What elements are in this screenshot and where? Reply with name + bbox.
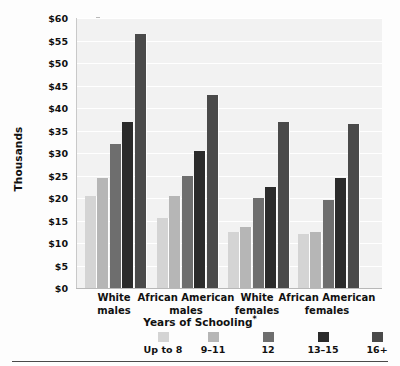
y-axis-tick-label: $40 xyxy=(26,103,68,114)
x-axis-baseline xyxy=(76,288,382,289)
y-axis-tick-labels: $60$55$50$45$40$35$30$25$20$15$10$5$0 xyxy=(26,18,68,288)
bar xyxy=(253,198,264,288)
bar-group xyxy=(298,18,359,288)
bar xyxy=(97,178,108,288)
bar xyxy=(182,176,193,289)
bar xyxy=(265,187,276,288)
y-axis-tick-label: $30 xyxy=(26,148,68,159)
plot-area xyxy=(76,18,382,288)
legend-swatch xyxy=(263,332,274,342)
footnote-marker: * xyxy=(253,315,257,324)
legend-swatch xyxy=(318,332,329,342)
y-axis-tick-label: $55 xyxy=(26,35,68,46)
bar xyxy=(335,178,346,288)
x-axis-title-text: Years of Schooling* xyxy=(143,316,256,328)
y-axis-title-text: Thousands xyxy=(12,104,24,214)
bar xyxy=(228,232,239,288)
bar xyxy=(135,34,146,288)
bar xyxy=(278,122,289,289)
y-axis-tick-label: $45 xyxy=(26,80,68,91)
legend-item[interactable]: 16+ xyxy=(332,332,400,355)
bar xyxy=(240,227,251,288)
x-axis-category-label: African Americanfemales xyxy=(267,292,387,317)
bar xyxy=(298,234,309,288)
y-axis-tick-label: $10 xyxy=(26,238,68,249)
bar xyxy=(157,218,168,288)
y-axis-tick-label: $5 xyxy=(26,260,68,271)
x-axis-title: Years of Schooling* xyxy=(0,316,400,328)
category-label-line1: African American xyxy=(267,292,387,305)
legend-swatch xyxy=(208,332,219,342)
y-axis-tick-label: $50 xyxy=(26,58,68,69)
legend-label: 16+ xyxy=(332,344,400,355)
bottom-divider-rule xyxy=(12,361,388,362)
chart-legend: Up to 89–111213–1516+ xyxy=(0,332,400,360)
bar xyxy=(194,151,205,288)
bar xyxy=(110,144,121,288)
bar xyxy=(169,196,180,288)
bar xyxy=(85,196,96,288)
y-axis-tick-label: $35 xyxy=(26,125,68,136)
bar xyxy=(323,200,334,288)
legend-swatch xyxy=(372,332,383,342)
bar-group xyxy=(228,18,289,288)
bar-chart-figure: Thousands $60$55$50$45$40$35$30$25$20$15… xyxy=(0,0,400,366)
y-axis-tick-label: $60 xyxy=(26,13,68,24)
y-axis-tick-label: $20 xyxy=(26,193,68,204)
bar xyxy=(122,122,133,289)
y-axis-tick-label: $15 xyxy=(26,215,68,226)
bar xyxy=(207,95,218,289)
y-axis-tick-label: $25 xyxy=(26,170,68,181)
y-axis-title: Thousands xyxy=(8,105,28,215)
bar xyxy=(348,124,359,288)
bar-group xyxy=(85,18,146,288)
bar xyxy=(310,232,321,288)
legend-swatch xyxy=(158,332,169,342)
bar-group xyxy=(157,18,218,288)
